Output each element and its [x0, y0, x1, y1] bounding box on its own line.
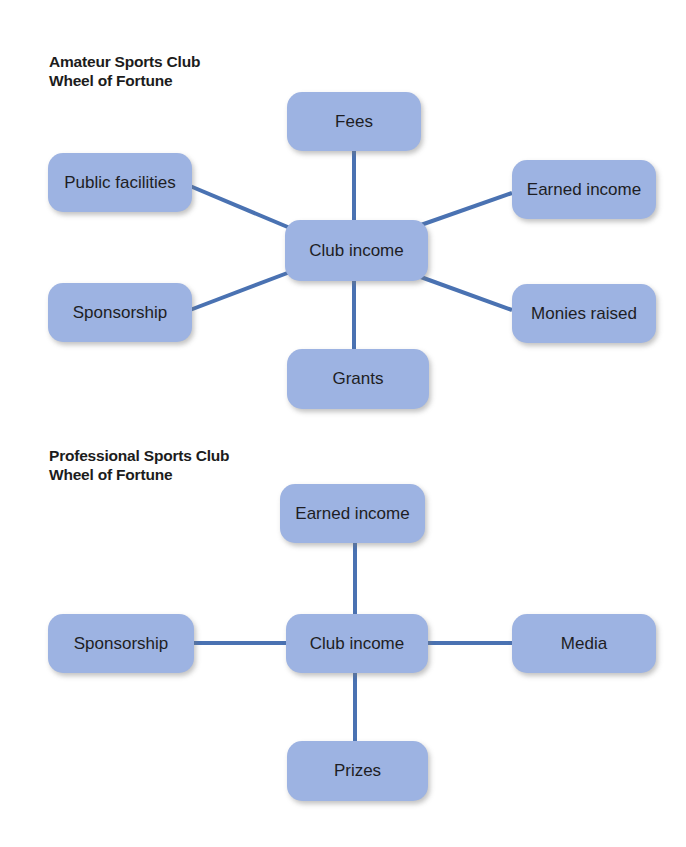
connector-center-to-earned-income [418, 193, 512, 226]
node-monies-raised: Monies raised [512, 284, 656, 343]
professional-title-line1: Professional Sports Club [49, 446, 229, 465]
node-public-facilities: Public facilities [48, 153, 192, 212]
node-sponsorship-amateur: Sponsorship [48, 283, 192, 342]
node-prizes: Prizes [287, 741, 428, 801]
node-club-income-amateur: Club income [285, 220, 428, 281]
amateur-title-line1: Amateur Sports Club [49, 52, 200, 71]
node-grants: Grants [287, 349, 429, 409]
node-earned-income: Earned income [512, 160, 656, 219]
professional-title: Professional Sports Club Wheel of Fortun… [49, 446, 229, 484]
amateur-title: Amateur Sports Club Wheel of Fortune [49, 52, 200, 90]
node-media: Media [512, 614, 656, 673]
professional-title-line2: Wheel of Fortune [49, 465, 229, 484]
node-sponsorship-pro: Sponsorship [48, 614, 194, 673]
node-earned-income-pro: Earned income [280, 484, 425, 543]
amateur-title-line2: Wheel of Fortune [49, 71, 200, 90]
connector-center-to-monies-raised [418, 276, 512, 310]
node-fees: Fees [287, 92, 421, 151]
connector-center-to-public-facilities [190, 186, 290, 228]
node-club-income-pro: Club income [286, 614, 428, 673]
connector-center-to-sponsorship [190, 272, 290, 310]
